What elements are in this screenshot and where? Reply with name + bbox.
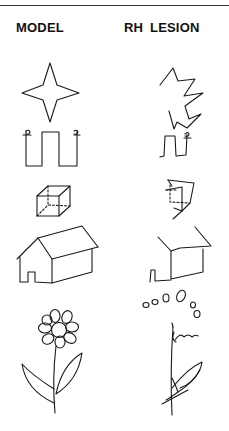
model-square-wave-drawing	[23, 130, 80, 166]
model-cube-drawing	[37, 186, 70, 216]
lesion-house-drawing	[150, 227, 211, 282]
lesion-square-wave-drawing	[160, 133, 191, 158]
lesion-star-drawing	[160, 68, 203, 129]
drawings-canvas	[0, 0, 229, 431]
model-star-drawing	[22, 63, 79, 122]
model-house-drawing	[17, 226, 98, 283]
lesion-cube-drawing	[166, 180, 194, 219]
model-flower-drawing	[22, 309, 82, 413]
lesion-flower-drawing	[143, 289, 202, 415]
